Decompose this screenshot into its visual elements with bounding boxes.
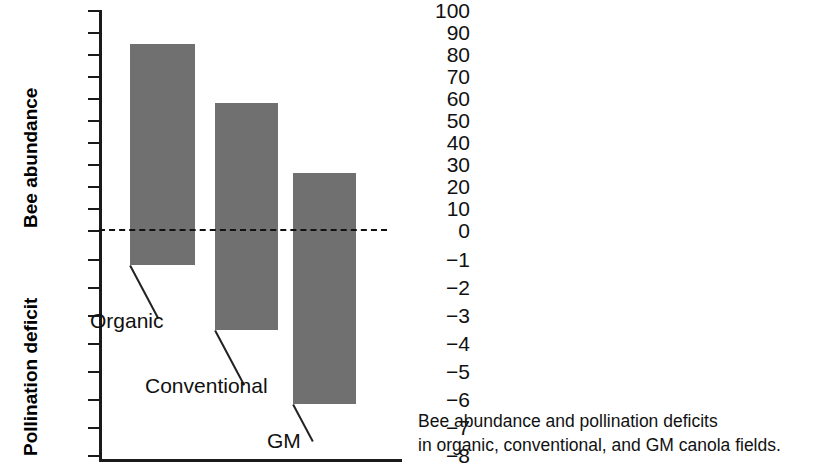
y-tick-neg2	[88, 287, 99, 289]
caption-line-2: in organic, conventional, and GM canola …	[418, 433, 830, 457]
y-tick-20	[88, 186, 99, 188]
y-tick-label-neg5: −5	[408, 361, 470, 382]
y-tick-label-50: 50	[408, 110, 470, 131]
y-axis-title-lower: Pollination deficit	[20, 298, 42, 456]
category-label-conventional: Conventional	[145, 375, 268, 396]
y-axis-title-upper: Bee abundance	[20, 88, 42, 228]
category-label-organic: Organic	[90, 310, 164, 331]
y-tick-label-40: 40	[408, 132, 470, 153]
y-tick-neg7	[88, 427, 99, 429]
y-tick-50	[88, 120, 99, 122]
y-tick-label-neg1: −1	[408, 249, 470, 270]
y-tick-70	[88, 76, 99, 78]
y-tick-neg8	[88, 455, 99, 457]
y-tick-40	[88, 142, 99, 144]
y-axis-line	[99, 10, 102, 462]
zero-reference-line	[99, 229, 387, 231]
y-tick-label-neg2: −2	[408, 277, 470, 298]
y-tick-neg5	[88, 371, 99, 373]
y-tick-30	[88, 164, 99, 166]
category-label-gm: GM	[267, 430, 301, 451]
y-tick-60	[88, 98, 99, 100]
y-tick-neg1	[88, 259, 99, 261]
y-tick-label-neg3: −3	[408, 305, 470, 326]
y-tick-label-0: 0	[408, 220, 470, 241]
y-tick-label-30: 30	[408, 154, 470, 175]
y-tick-label-20: 20	[408, 176, 470, 197]
figure-bee-abundance-pollination-deficit: 100 90 80 70 60 50 40 30 20 10 0 −1 −2 −…	[0, 0, 835, 465]
y-tick-90	[88, 32, 99, 34]
y-tick-label-neg6: −6	[408, 389, 470, 410]
chart-plot-area: 100 90 80 70 60 50 40 30 20 10 0 −1 −2 −…	[0, 0, 470, 465]
bar-gm	[293, 173, 356, 404]
bar-organic	[130, 44, 195, 265]
y-tick-label-60: 60	[408, 88, 470, 109]
y-tick-80	[88, 54, 99, 56]
x-axis-line	[99, 459, 402, 462]
y-tick-label-70: 70	[408, 66, 470, 87]
figure-caption: Bee abundance and pollination deficits i…	[418, 409, 830, 457]
y-tick-0	[88, 230, 99, 232]
y-tick-neg4	[88, 343, 99, 345]
bar-conventional	[215, 103, 278, 330]
y-tick-label-90: 90	[408, 22, 470, 43]
y-tick-label-80: 80	[408, 44, 470, 65]
y-tick-10	[88, 208, 99, 210]
y-tick-label-10: 10	[408, 198, 470, 219]
y-tick-label-neg4: −4	[408, 333, 470, 354]
y-tick-label-100: 100	[408, 0, 470, 21]
y-tick-100	[88, 10, 99, 12]
y-tick-neg6	[88, 399, 99, 401]
caption-line-1: Bee abundance and pollination deficits	[418, 409, 830, 433]
